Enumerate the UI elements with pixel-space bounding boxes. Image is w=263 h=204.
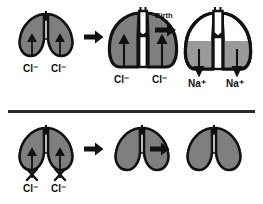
stage-1-group: Cl⁻ Cl⁻ [14, 8, 78, 60]
ion-label-cl-left-stage4: Cl⁻ [23, 184, 38, 194]
stage-4-group: Cl⁻ Cl⁻ [14, 122, 78, 174]
ion-label-cl-left-stage2: Cl⁻ [114, 75, 129, 85]
bottom-row-panel: Cl⁻ Cl⁻ [0, 108, 263, 204]
transition-arrow-3 [84, 142, 104, 156]
small-lung-filled-icon [14, 8, 78, 60]
birth-transition-label: Birth [155, 12, 173, 20]
right-arrow-icon [155, 23, 177, 37]
blocked-x-marker-icon [14, 166, 78, 184]
ion-label-cl-left-stage1: Cl⁻ [23, 64, 38, 74]
lung-fluid-diagram: Cl⁻ Cl⁻ [0, 0, 263, 204]
right-arrow-icon [150, 142, 170, 156]
stage-6-group [182, 122, 246, 174]
stage-3-group: Na⁺ Na⁺ [182, 5, 254, 81]
ion-label-cl-right-stage4: Cl⁻ [51, 184, 66, 194]
ion-label-na-left-stage3: Na⁺ [188, 79, 206, 89]
air-filled-lung-icon [182, 5, 254, 81]
ion-label-cl-right-stage2: Cl⁻ [152, 75, 167, 85]
right-arrow-icon [84, 30, 104, 44]
top-row-panel: Cl⁻ Cl⁻ [0, 0, 263, 108]
small-lung-icon [182, 122, 246, 174]
right-arrow-icon [84, 142, 104, 156]
transition-arrow-1 [84, 30, 104, 44]
ion-label-cl-right-stage1: Cl⁻ [51, 64, 66, 74]
transition-arrow-4 [150, 142, 170, 156]
ion-label-na-right-stage3: Na⁺ [226, 79, 244, 89]
